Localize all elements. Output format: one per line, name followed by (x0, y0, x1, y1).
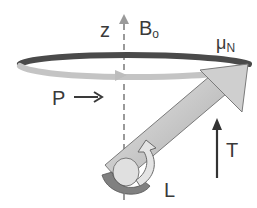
precession-direction-arrow (74, 92, 102, 102)
torque-label: T (226, 140, 238, 160)
field-symbol: B (139, 17, 152, 39)
z-axis-label: z (100, 20, 110, 40)
torque-arrow (212, 118, 222, 178)
mu-subscript: N (226, 41, 235, 55)
field-label: Bo (139, 18, 159, 40)
z-axis-arrowhead-icon (119, 14, 129, 24)
angular-momentum-label: L (164, 180, 175, 200)
precession-diagram (0, 0, 257, 208)
mu-symbol: μ (216, 33, 226, 53)
precession-label: P (52, 88, 65, 108)
magnetic-moment-label: μN (216, 34, 235, 54)
torque-arrowhead-icon (212, 118, 222, 130)
field-subscript: o (152, 27, 159, 41)
